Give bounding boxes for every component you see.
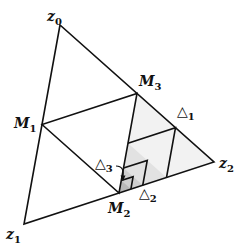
outer-triangle (24, 25, 214, 224)
label-M1: M1 (13, 115, 36, 134)
label-delta1: △1 (177, 103, 195, 122)
label-delta2: △2 (139, 185, 157, 204)
label-M3: M3 (138, 73, 162, 92)
label-delta3: △3 (95, 155, 113, 174)
label-z1: z1 (5, 226, 21, 245)
triangle-subdivision-diagram: z0 z1 z2 M1 M2 M3 △1 △2 △3 (0, 0, 246, 247)
label-z0: z0 (46, 8, 62, 27)
label-z2: z2 (218, 155, 234, 174)
label-M2: M2 (107, 200, 131, 219)
